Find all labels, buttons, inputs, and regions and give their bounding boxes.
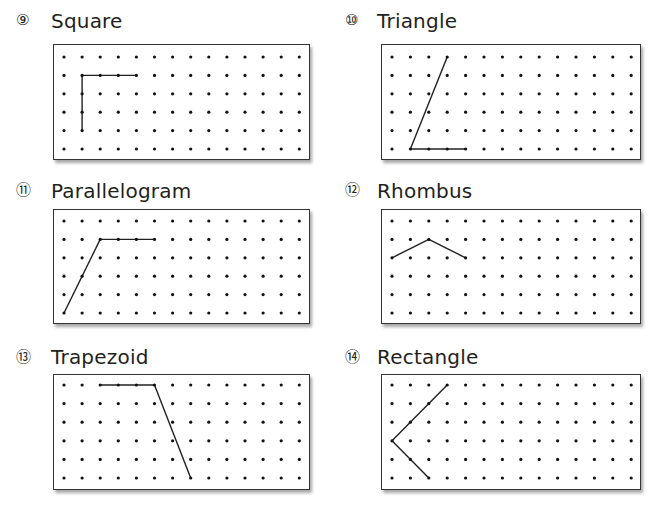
grid-dot: [117, 219, 120, 222]
grid-dot: [81, 275, 84, 278]
grid-dot: [81, 311, 84, 314]
grid-dot: [446, 111, 449, 114]
grid-dot: [574, 147, 577, 150]
grid-dot: [99, 55, 102, 58]
grid-dot: [262, 311, 265, 314]
grid-dot: [630, 383, 633, 386]
grid-dot: [464, 74, 467, 77]
grid-dot: [280, 238, 283, 241]
grid-dot: [280, 256, 283, 259]
grid-dot: [153, 147, 156, 150]
grid-dot: [427, 55, 430, 58]
grid-dot: [189, 293, 192, 296]
grid-dot: [464, 311, 467, 314]
grid-dot: [556, 476, 559, 479]
grid-dot: [153, 238, 156, 241]
grid-dot: [538, 402, 541, 405]
grid-dot: [556, 293, 559, 296]
grid-dot: [62, 219, 65, 222]
grid-dot: [519, 476, 522, 479]
grid-dot: [280, 402, 283, 405]
grid-dot: [409, 92, 412, 95]
grid-dot: [630, 421, 633, 424]
grid-dot: [280, 458, 283, 461]
grid-dot: [62, 129, 65, 132]
grid-dot: [409, 275, 412, 278]
grid-dot: [446, 129, 449, 132]
grid-dot: [207, 293, 210, 296]
grid-dot: [262, 383, 265, 386]
grid-dot: [427, 147, 430, 150]
grid-dot: [556, 55, 559, 58]
grid-dot: [243, 476, 246, 479]
grid-dot: [519, 147, 522, 150]
grid-dot: [171, 293, 174, 296]
grid-dot: [171, 402, 174, 405]
grid-dot: [593, 476, 596, 479]
grid-dot: [99, 458, 102, 461]
grid-dot: [81, 238, 84, 241]
grid-dot: [298, 111, 301, 114]
grid-dot: [538, 55, 541, 58]
grid-dot: [99, 219, 102, 222]
problem-number: ⑬: [16, 350, 31, 365]
grid-dot: [519, 293, 522, 296]
grid-dot: [482, 275, 485, 278]
grid-dot: [262, 402, 265, 405]
grid-dot: [189, 129, 192, 132]
grid-dot: [171, 55, 174, 58]
grid-dot: [225, 219, 228, 222]
grid-dot: [593, 55, 596, 58]
grid-dot: [464, 129, 467, 132]
grid-dot: [135, 111, 138, 114]
grid-dot: [117, 402, 120, 405]
shape-segment: [410, 57, 447, 149]
grid-dot: [501, 476, 504, 479]
grid-dot: [225, 256, 228, 259]
grid-dot: [243, 458, 246, 461]
grid-dot: [574, 439, 577, 442]
grid-dot: [538, 439, 541, 442]
grid-dot: [298, 383, 301, 386]
grid-dot: [482, 439, 485, 442]
grid-dot: [99, 311, 102, 314]
grid-dot: [409, 402, 412, 405]
grid-dot: [409, 311, 412, 314]
grid-dot: [501, 55, 504, 58]
grid-dot: [482, 421, 485, 424]
grid-dot: [593, 256, 596, 259]
grid-dot: [135, 311, 138, 314]
grid-dot: [207, 238, 210, 241]
dot-grid: [53, 209, 310, 324]
grid-dot: [62, 111, 65, 114]
grid-dot: [135, 458, 138, 461]
grid-dot: [611, 111, 614, 114]
grid-dot: [280, 55, 283, 58]
grid-dot: [298, 311, 301, 314]
grid-dot: [519, 219, 522, 222]
grid-dot: [482, 476, 485, 479]
grid-dot: [519, 439, 522, 442]
grid-dot: [280, 476, 283, 479]
grid-dot: [207, 219, 210, 222]
grid-dot: [446, 311, 449, 314]
grid-dot: [501, 458, 504, 461]
grid-dot: [446, 383, 449, 386]
grid-dot: [446, 439, 449, 442]
grid-dot: [574, 476, 577, 479]
grid-dot: [593, 439, 596, 442]
grid-dot: [99, 476, 102, 479]
grid-dot: [611, 256, 614, 259]
grid-dot: [556, 92, 559, 95]
grid-dot: [538, 74, 541, 77]
grid-dot: [171, 383, 174, 386]
grid-dot: [409, 219, 412, 222]
grid-dot: [262, 458, 265, 461]
grid-dot: [501, 111, 504, 114]
grid-dot: [574, 311, 577, 314]
grid-dot: [409, 129, 412, 132]
grid-dot: [189, 311, 192, 314]
grid-dot: [243, 111, 246, 114]
grid-dot: [99, 402, 102, 405]
grid-dot: [519, 92, 522, 95]
